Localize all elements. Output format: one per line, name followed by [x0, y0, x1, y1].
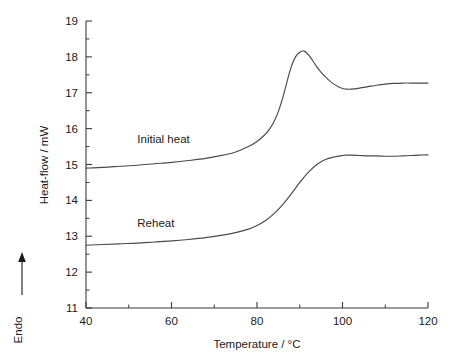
y-tick-label: 13 — [65, 230, 78, 242]
x-tick-label: 100 — [333, 315, 352, 327]
x-tick-label: 40 — [80, 315, 93, 327]
tick-marks — [86, 21, 428, 308]
data-curves — [86, 51, 428, 245]
y-tick-label: 12 — [65, 266, 78, 278]
tick-labels: 111213141516171819406080100120 — [65, 15, 437, 327]
x-tick-label: 60 — [165, 315, 178, 327]
series-annotations: Initial heatReheat — [137, 133, 190, 229]
endo-axis-label: Endo — [12, 317, 24, 344]
series-label-reheat: Reheat — [137, 217, 175, 229]
series-label-initial-heat: Initial heat — [137, 133, 190, 145]
endo-arrow-head — [18, 252, 26, 262]
y-tick-label: 14 — [65, 194, 78, 206]
chart-canvas: 111213141516171819406080100120 Initial h… — [0, 0, 450, 359]
curve-reheat — [86, 155, 428, 245]
x-tick-label: 80 — [251, 315, 264, 327]
curve-initial-heat — [86, 51, 428, 168]
y-tick-label: 18 — [65, 51, 78, 63]
x-axis-title: Temperature / °C — [213, 338, 300, 350]
y-tick-label: 19 — [65, 15, 78, 27]
y-tick-label: 17 — [65, 87, 78, 99]
y-tick-label: 11 — [66, 302, 78, 314]
endo-direction-indicator: Endo — [12, 252, 26, 343]
dsc-thermogram-figure: 111213141516171819406080100120 Initial h… — [0, 0, 450, 359]
axes — [86, 21, 428, 308]
x-tick-label: 120 — [418, 315, 437, 327]
y-axis-title: Heat-flow / mW — [38, 126, 50, 205]
y-tick-label: 16 — [65, 123, 78, 135]
y-tick-label: 15 — [65, 159, 78, 171]
